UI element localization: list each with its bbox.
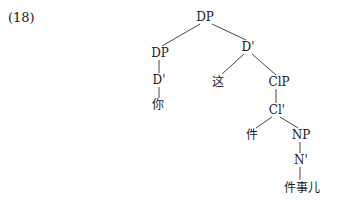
- node-dbar-right: D': [242, 40, 255, 54]
- node-zhe: 这: [212, 75, 224, 89]
- node-clbar: Cl': [269, 103, 285, 117]
- node-dp-left: DP: [151, 46, 169, 60]
- node-jian: 件: [246, 128, 258, 142]
- node-np: NP: [292, 128, 311, 142]
- node-ni: 你: [152, 98, 164, 112]
- node-clp: ClP: [268, 75, 289, 89]
- tree-edges: [0, 0, 341, 203]
- node-dbar-left: D': [153, 73, 166, 87]
- node-dp-root: DP: [196, 10, 214, 24]
- node-nbar: N': [294, 153, 308, 167]
- node-jianshier: 件事儿: [284, 181, 320, 195]
